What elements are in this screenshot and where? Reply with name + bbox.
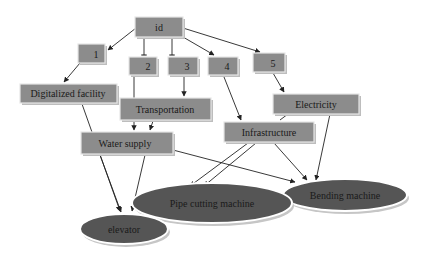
node-elevator[interactable]: elevator (80, 214, 170, 247)
node-label: Infrastructure (242, 127, 297, 138)
node-2[interactable]: 2 (129, 57, 159, 77)
node-digitalized-facility[interactable]: Digitalized facility (20, 84, 119, 105)
edge-1-digitalized (64, 63, 80, 82)
edge-water-bending (173, 150, 295, 182)
edge-infrastructure-bending (274, 143, 307, 180)
node-label: Water supply (99, 138, 152, 149)
node-label: Pipe cutting machine (170, 198, 255, 209)
node-label: Electricity (295, 99, 337, 110)
node-label: Digitalized facility (30, 88, 105, 99)
edge-electricity-bending (316, 114, 330, 180)
node-label: Transportation (136, 104, 195, 115)
node-label: 1 (94, 49, 99, 60)
edge-id-5 (183, 28, 260, 52)
node-5[interactable]: 5 (253, 53, 287, 74)
node-label: 3 (185, 61, 190, 72)
diagram-canvas: id 1 2 3 4 5 Digitalized facility Transp… (0, 0, 425, 260)
node-label: 5 (271, 58, 276, 69)
node-bending-machine[interactable]: Bending machine (283, 179, 409, 214)
node-id[interactable]: id (135, 17, 185, 39)
node-label: id (155, 22, 163, 33)
edge-infrastructure-pipe-a (190, 143, 248, 186)
node-label: Bending machine (310, 190, 381, 201)
edge-id-4 (183, 37, 214, 55)
node-label: elevator (108, 224, 141, 235)
edge-id-1 (108, 28, 136, 50)
node-3[interactable]: 3 (168, 57, 200, 77)
node-1[interactable]: 1 (78, 44, 107, 65)
node-water-supply[interactable]: Water supply (81, 132, 175, 156)
edge-water-elevator-b (100, 155, 121, 212)
edge-infrastructure-pipe-b (204, 143, 256, 186)
edge-transportation-water (150, 121, 153, 130)
node-electricity[interactable]: Electricity (273, 94, 361, 116)
node-transportation[interactable]: Transportation (120, 98, 213, 122)
node-label: 2 (146, 61, 151, 72)
node-label: 4 (225, 61, 230, 72)
node-4[interactable]: 4 (208, 57, 240, 77)
edge-5-electricity (273, 73, 284, 92)
node-infrastructure[interactable]: Infrastructure (224, 122, 316, 144)
edge-4-infrastructure (224, 77, 241, 120)
